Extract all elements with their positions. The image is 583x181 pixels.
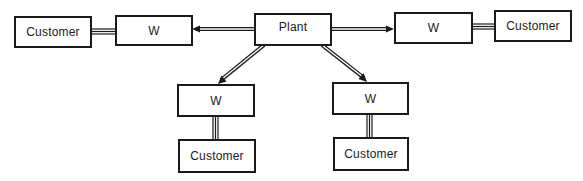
customer-bottom-right-box: Customer: [333, 137, 409, 171]
w-bottom-right-box: W: [332, 82, 409, 115]
customer-right-box: Customer: [494, 10, 572, 42]
customer-left-label: Customer: [26, 25, 80, 39]
w-bottom-right-label: W: [365, 92, 377, 106]
w-right-label: W: [428, 21, 440, 35]
w-left-box: W: [115, 15, 193, 46]
w-bottom-left-box: W: [177, 84, 255, 117]
customer-left-box: Customer: [14, 16, 92, 48]
w-bottom-left-label: W: [210, 94, 222, 108]
arrow-plant-to-w-left: [192, 26, 254, 33]
link-w-right-customer-right: [472, 24, 494, 29]
link-w-left-customer-left: [91, 29, 115, 34]
link-w-bottom-left-customer: [213, 116, 218, 139]
arrow-plant-to-w-bottom-right: [322, 45, 367, 82]
arrow-plant-to-w-right: [331, 26, 394, 33]
plant-box: Plant: [254, 13, 332, 46]
arrow-plant-to-w-bottom-left: [218, 45, 264, 84]
link-w-bottom-right-customer: [367, 114, 372, 137]
customer-right-label: Customer: [506, 19, 560, 33]
plant-label: Plant: [279, 20, 307, 34]
w-right-box: W: [394, 12, 473, 44]
customer-bottom-left-box: Customer: [178, 139, 256, 173]
customer-bottom-right-label: Customer: [344, 147, 398, 161]
customer-bottom-left-label: Customer: [190, 149, 244, 163]
w-left-label: W: [148, 24, 160, 38]
